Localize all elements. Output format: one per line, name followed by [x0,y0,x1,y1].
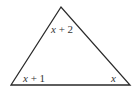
apex-angle-label: x + 2 [50,23,73,35]
bottom-right-angle-label: x [110,72,116,84]
bottom-left-angle-label: x + 1 [22,72,45,84]
triangle-diagram: x + 2 x + 1 x [0,0,134,92]
